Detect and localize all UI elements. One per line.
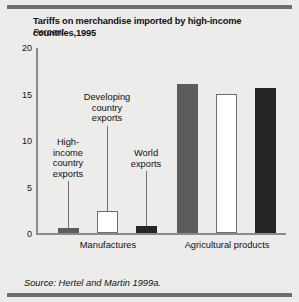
top-divider-rule xyxy=(7,5,292,9)
annotation-world-exports: World exports xyxy=(116,148,176,169)
leader-line-high-income xyxy=(68,181,69,229)
bar-agricultural-world-exports[interactable] xyxy=(255,88,276,233)
bar-manufactures-developing-country-exports[interactable] xyxy=(97,211,118,233)
y-axis-line xyxy=(36,48,38,234)
plot-area: 20 15 10 5 0 Manufactures Agricultural p… xyxy=(36,44,288,238)
bar-agricultural-high-income-country-exports[interactable] xyxy=(177,84,198,233)
chart-figure: Tariffs on merchandise imported by high-… xyxy=(0,0,299,302)
bar-agricultural-developing-country-exports[interactable] xyxy=(216,94,237,234)
annotation-developing-country-exports: Developing country exports xyxy=(64,92,150,124)
annotation-high-income-country-exports: High- income country exports xyxy=(41,137,95,179)
x-label-agricultural-products: Agricultural products xyxy=(185,240,270,250)
y-tick-10: 10 xyxy=(22,136,32,146)
bar-manufactures-world-exports[interactable] xyxy=(136,226,157,233)
y-tick-0: 0 xyxy=(27,229,32,239)
x-label-manufactures: Manufactures xyxy=(80,240,136,250)
y-axis-unit-label: Percent xyxy=(33,27,64,37)
y-tick-15: 15 xyxy=(22,90,32,100)
bottom-divider-rule xyxy=(7,293,292,297)
bar-manufactures-high-income-country-exports[interactable] xyxy=(58,228,79,233)
y-tick-5: 5 xyxy=(27,183,32,193)
chart-title: Tariffs on merchandise imported by high-… xyxy=(33,15,291,39)
leader-line-developing xyxy=(107,126,108,211)
source-note: Source: Hertel and Martin 1999a. xyxy=(24,278,161,288)
leader-line-world xyxy=(146,171,147,226)
y-tick-20: 20 xyxy=(22,43,32,53)
x-axis-line xyxy=(36,233,286,235)
